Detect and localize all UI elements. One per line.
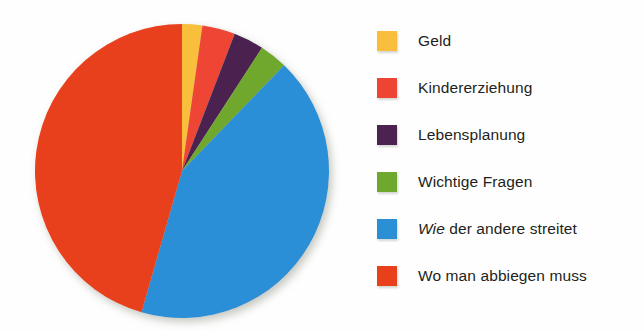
legend-swatch-wie-der-andere-streitet	[377, 219, 397, 239]
legend-item-wo-man-abbiegen-muss[interactable]: Wo man abbiegen muss	[377, 253, 644, 299]
legend-item-geld[interactable]: Geld	[377, 18, 644, 64]
legend-label-wichtige-fragen: Wichtige Fragen	[418, 173, 532, 190]
legend-swatch-geld	[377, 31, 397, 51]
legend-label-italic-prefix: Wie	[418, 220, 449, 237]
legend-label-wo-man-abbiegen-muss: Wo man abbiegen muss	[418, 267, 587, 284]
pie-chart-area	[0, 0, 360, 331]
legend-item-wie-der-andere-streitet[interactable]: Wie der andere streitet	[377, 206, 644, 252]
legend-item-lebensplanung[interactable]: Lebensplanung	[377, 112, 644, 158]
pie-chart-figure: Geld Kindererziehung Lebensplanung Wicht…	[0, 0, 644, 331]
pie-slices-group	[35, 24, 329, 318]
legend-item-wichtige-fragen[interactable]: Wichtige Fragen	[377, 159, 644, 205]
legend-label-rest: der andere streitet	[449, 220, 577, 237]
pie-chart-svg	[0, 0, 360, 331]
chart-legend: Geld Kindererziehung Lebensplanung Wicht…	[377, 18, 644, 318]
legend-label-wie-der-andere-streitet: Wie der andere streitet	[418, 220, 577, 237]
legend-swatch-kindererziehung	[377, 78, 397, 98]
legend-swatch-wichtige-fragen	[377, 172, 397, 192]
legend-item-kindererziehung[interactable]: Kindererziehung	[377, 65, 644, 111]
legend-label-lebensplanung: Lebensplanung	[418, 126, 525, 143]
legend-label-geld: Geld	[418, 32, 451, 49]
legend-label-kindererziehung: Kindererziehung	[418, 79, 532, 96]
legend-swatch-lebensplanung	[377, 125, 397, 145]
legend-swatch-wo-man-abbiegen-muss	[377, 266, 397, 286]
